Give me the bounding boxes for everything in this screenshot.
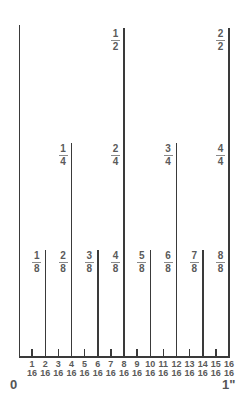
denominator: 16 [80, 369, 90, 378]
quarter-fraction-label: 14 [59, 144, 68, 167]
numerator: 3 [165, 144, 171, 155]
eighth-fraction-label: 38 [85, 251, 94, 274]
sixteenth-fraction-label: 616 [92, 360, 104, 378]
numerator: 8 [218, 251, 224, 262]
denominator: 2 [113, 41, 119, 52]
sixteenth-fraction-label: 316 [52, 360, 64, 378]
sixteenth-tick [58, 349, 60, 357]
denominator: 8 [139, 263, 145, 274]
denominator: 2 [218, 41, 224, 52]
one-inch-label: 1" [222, 377, 235, 392]
eighth-tick [97, 250, 99, 357]
quarter-fraction-label: 24 [111, 144, 120, 167]
denominator: 16 [53, 369, 63, 378]
sixteenth-tick [136, 349, 138, 357]
eighth-tick [150, 250, 152, 357]
numerator: 1 [113, 29, 119, 40]
denominator: 16 [93, 369, 103, 378]
numerator: 2 [113, 144, 119, 155]
denominator: 8 [113, 263, 119, 274]
numerator: 1 [60, 144, 66, 155]
denominator: 16 [145, 369, 155, 378]
denominator: 8 [218, 263, 224, 274]
sixteenth-tick [84, 349, 86, 357]
denominator: 8 [86, 263, 92, 274]
denominator: 8 [191, 263, 197, 274]
eighth-fraction-label: 18 [32, 251, 41, 274]
denominator: 8 [165, 263, 171, 274]
sixteenth-fraction-label: 1016 [144, 360, 156, 378]
denominator: 4 [60, 156, 66, 167]
numerator: 6 [165, 251, 171, 262]
eighth-fraction-label: 28 [59, 251, 68, 274]
denominator: 16 [66, 369, 76, 378]
denominator: 16 [211, 369, 221, 378]
sixteenth-tick [110, 349, 112, 357]
sixteenth-fraction-label: 1616 [223, 360, 235, 378]
numerator: 2 [60, 251, 66, 262]
sixteenth-tick [189, 349, 191, 357]
half-tick [228, 28, 230, 357]
denominator: 4 [113, 156, 119, 167]
numerator: 5 [139, 251, 145, 262]
sixteenth-fraction-label: 116 [26, 360, 38, 378]
sixteenth-fraction-label: 1316 [184, 360, 196, 378]
numerator: 4 [218, 144, 224, 155]
sixteenth-fraction-label: 716 [105, 360, 117, 378]
denominator: 16 [40, 369, 50, 378]
denominator: 16 [106, 369, 116, 378]
sixteenth-fraction-label: 216 [39, 360, 51, 378]
numerator: 1 [34, 251, 40, 262]
eighth-tick [45, 250, 47, 357]
quarter-fraction-label: 44 [216, 144, 225, 167]
denominator: 4 [218, 156, 224, 167]
eighth-fraction-label: 78 [190, 251, 199, 274]
eighth-fraction-label: 88 [216, 251, 225, 274]
sixteenth-fraction-label: 1216 [171, 360, 183, 378]
half-fraction-label: 22 [216, 29, 225, 52]
inch-ruler-diagram: 1222142434441828384858687888116216316416… [0, 0, 249, 405]
denominator: 16 [27, 369, 37, 378]
sixteenth-fraction-label: 816 [118, 360, 130, 378]
numerator: 2 [218, 29, 224, 40]
denominator: 8 [60, 263, 66, 274]
numerator: 7 [191, 251, 197, 262]
quarter-tick [176, 143, 178, 357]
eighth-fraction-label: 68 [164, 251, 173, 274]
denominator: 16 [119, 369, 129, 378]
quarter-fraction-label: 34 [164, 144, 173, 167]
quarter-tick [71, 143, 73, 357]
eighth-tick [202, 250, 204, 357]
sixteenth-tick [215, 349, 217, 357]
half-fraction-label: 12 [111, 29, 120, 52]
denominator: 8 [34, 263, 40, 274]
zero-label: 0 [10, 377, 17, 392]
sixteenth-fraction-label: 516 [79, 360, 91, 378]
sixteenth-fraction-label: 1416 [197, 360, 209, 378]
denominator: 16 [158, 369, 168, 378]
half-tick [123, 28, 125, 357]
denominator: 16 [171, 369, 181, 378]
eighth-fraction-label: 58 [137, 251, 146, 274]
denominator: 16 [185, 369, 195, 378]
sixteenth-fraction-label: 916 [131, 360, 143, 378]
sixteenth-fraction-label: 1516 [210, 360, 222, 378]
sixteenth-tick [31, 349, 33, 357]
zero-tick [19, 25, 21, 357]
denominator: 16 [132, 369, 142, 378]
sixteenth-fraction-label: 1116 [157, 360, 169, 378]
sixteenth-tick [163, 349, 165, 357]
sixteenth-fraction-label: 416 [66, 360, 78, 378]
denominator: 4 [165, 156, 171, 167]
numerator: 3 [86, 251, 92, 262]
numerator: 4 [113, 251, 119, 262]
denominator: 16 [198, 369, 208, 378]
eighth-fraction-label: 48 [111, 251, 120, 274]
